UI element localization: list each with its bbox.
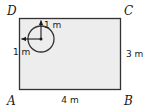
corner-label-c: C	[124, 4, 133, 18]
figure-canvas: D C A B 4 m 3 m 1 m 1 m	[0, 0, 143, 112]
corner-label-b: B	[123, 94, 133, 108]
width-dimension-label: 4 m	[61, 95, 78, 105]
geometry-figure: D C A B 4 m 3 m 1 m 1 m	[0, 0, 143, 112]
offset-left-dimension-label: 1 m	[13, 47, 30, 57]
corner-label-a: A	[6, 94, 16, 108]
corner-label-d: D	[6, 4, 17, 18]
offset-top-dimension-label: 1 m	[44, 20, 61, 30]
height-dimension-label: 3 m	[126, 49, 143, 59]
